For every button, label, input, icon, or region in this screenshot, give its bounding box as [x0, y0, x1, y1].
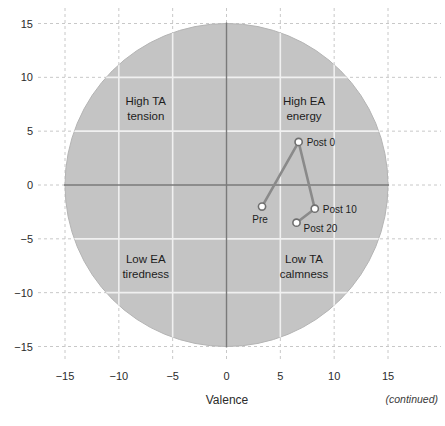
circumplex-chart: High TAtensionHigh EAenergyLow EAtiredne… [0, 0, 445, 426]
x-tick-label: −10 [109, 370, 128, 382]
quadrant-lower-right-line1: Low TA [285, 253, 323, 265]
y-tick-label: −10 [14, 287, 33, 299]
chart-canvas: High TAtensionHigh EAenergyLow EAtiredne… [0, 0, 445, 426]
x-tick-label: −5 [166, 370, 179, 382]
quadrant-upper-left-line2: tension [127, 110, 164, 122]
quadrant-upper-right-line2: energy [286, 110, 321, 122]
y-tick-label: 10 [21, 71, 33, 83]
y-tick-label: 5 [27, 125, 33, 137]
quadrant-lower-right-line2: calmness [280, 268, 329, 280]
quadrant-lower-left-line2: tiredness [122, 268, 169, 280]
data-point-marker[interactable] [295, 138, 302, 145]
data-point-label: Post 10 [323, 204, 357, 215]
y-tick-label: 15 [21, 18, 33, 30]
quadrant-upper-left-line1: High TA [126, 95, 167, 107]
quadrant-lower-left-line1: Low EA [126, 253, 166, 265]
data-point-label: Post 20 [303, 223, 337, 234]
y-tick-label: −5 [20, 233, 33, 245]
data-point-label: Post 0 [307, 137, 336, 148]
x-tick-label: −15 [56, 370, 75, 382]
y-tick-label: 0 [27, 179, 33, 191]
quadrant-upper-right-line1: High EA [283, 95, 326, 107]
x-tick-label: 15 [382, 370, 394, 382]
continued-note: (continued) [385, 393, 438, 405]
x-axis-title: Valence [206, 393, 249, 407]
x-tick-label: 5 [277, 370, 283, 382]
data-point-marker[interactable] [311, 205, 318, 212]
data-point-marker[interactable] [258, 203, 265, 210]
x-tick-label: 0 [223, 370, 229, 382]
data-point-label: Pre [252, 214, 268, 225]
data-point-marker[interactable] [293, 219, 300, 226]
x-tick-label: 10 [328, 370, 340, 382]
y-tick-label: −15 [14, 341, 33, 353]
